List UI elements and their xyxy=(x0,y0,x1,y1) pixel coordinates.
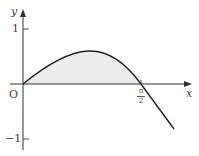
y-axis-label: y xyxy=(11,6,17,17)
y-tick-label-1: 1 xyxy=(12,23,19,34)
x-tick-numerator: π xyxy=(139,87,144,95)
x-axis-label: x xyxy=(186,88,192,99)
shaded-area xyxy=(23,51,141,84)
y-axis-arrow-icon xyxy=(20,9,26,17)
y-tick-label-neg1: −1 xyxy=(5,133,21,144)
x-tick-label-pi-half: π 2 xyxy=(136,88,146,105)
function-graph: y 1 O −1 x π 2 xyxy=(0,0,199,156)
plot-area xyxy=(0,0,199,156)
x-tick-denominator: 2 xyxy=(139,97,143,105)
origin-label: O xyxy=(9,89,18,100)
